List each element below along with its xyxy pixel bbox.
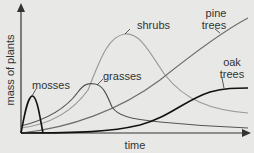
x-axis-arrow-icon bbox=[242, 129, 251, 137]
x-axis-label: time bbox=[125, 139, 146, 151]
label-oak-line2: trees bbox=[220, 68, 245, 80]
label-grasses: grasses bbox=[103, 70, 142, 82]
label-shrubs: shrubs bbox=[137, 19, 171, 31]
label-oak-line1: oak bbox=[223, 56, 241, 68]
y-axis-arrow-icon bbox=[17, 3, 25, 12]
label-pine-line1: pine bbox=[206, 7, 227, 19]
succession-chart: mass of plants time mosses grasses shrub… bbox=[0, 0, 254, 153]
label-pine-line2: trees bbox=[202, 19, 227, 31]
y-axis-label: mass of plants bbox=[4, 34, 16, 105]
label-mosses: mosses bbox=[32, 79, 70, 91]
